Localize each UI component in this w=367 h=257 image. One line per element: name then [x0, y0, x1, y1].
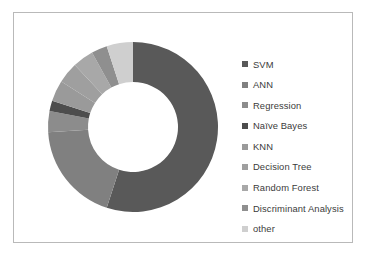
- legend-item[interactable]: Regression: [242, 95, 367, 116]
- legend-item-label: other: [253, 224, 275, 233]
- legend-item-label: Naïve Bayes: [253, 121, 307, 130]
- donut-chart: [38, 31, 228, 226]
- legend-item[interactable]: Naïve Bayes: [242, 116, 367, 137]
- legend-item-label: Discriminant Analysis: [253, 204, 344, 213]
- legend-swatch-icon: [242, 82, 248, 88]
- legend-item-label: Decision Tree: [253, 162, 312, 171]
- legend-item[interactable]: KNN: [242, 136, 367, 157]
- legend-item[interactable]: SVM: [242, 54, 367, 75]
- legend-swatch-icon: [242, 61, 248, 67]
- legend-item[interactable]: Discriminant Analysis: [242, 198, 367, 219]
- legend-item[interactable]: ANN: [242, 75, 367, 96]
- legend-item-label: ANN: [253, 80, 273, 89]
- chart-legend: SVMANNRegressionNaïve BayesKNNDecision T…: [242, 54, 367, 239]
- legend-item-label: SVM: [253, 60, 274, 69]
- legend-swatch-icon: [242, 226, 248, 232]
- donut-slice-group: [48, 42, 218, 212]
- chart-frame: SVMANNRegressionNaïve BayesKNNDecision T…: [13, 12, 353, 243]
- legend-item[interactable]: Decision Tree: [242, 157, 367, 178]
- figure-canvas: SVMANNRegressionNaïve BayesKNNDecision T…: [0, 0, 367, 257]
- legend-swatch-icon: [242, 205, 248, 211]
- legend-item[interactable]: Random Forest: [242, 177, 367, 198]
- legend-swatch-icon: [242, 164, 248, 170]
- legend-swatch-icon: [242, 102, 248, 108]
- legend-swatch-icon: [242, 144, 248, 150]
- legend-item[interactable]: other: [242, 219, 367, 240]
- donut-slice: [48, 130, 119, 208]
- legend-item-label: Regression: [253, 101, 301, 110]
- legend-item-label: Random Forest: [253, 183, 319, 192]
- legend-item-label: KNN: [253, 142, 273, 151]
- donut-chart-svg: [38, 31, 228, 226]
- legend-swatch-icon: [242, 123, 248, 129]
- legend-swatch-icon: [242, 185, 248, 191]
